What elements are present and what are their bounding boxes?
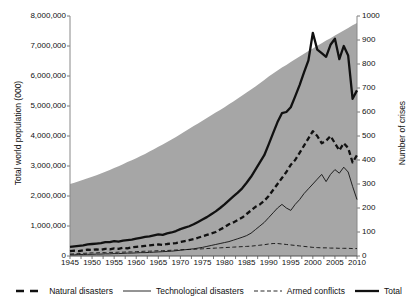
legend-swatch-thick-dashed: [15, 286, 45, 296]
legend-swatch-thick-solid: [354, 286, 380, 296]
legend-label: Armed conflicts: [287, 286, 345, 296]
chart-container: Total world population (000) Number of c…: [0, 0, 417, 304]
plot-area: [0, 0, 417, 304]
legend-item[interactable]: Technological disasters: [122, 286, 244, 296]
legend-swatch-thin-solid: [122, 286, 152, 296]
legend-label: Total: [384, 286, 402, 296]
legend-item[interactable]: Natural disasters: [15, 286, 113, 296]
legend-swatch-thin-dashed: [253, 286, 283, 296]
chart-legend: Natural disastersTechnological disasters…: [0, 281, 417, 301]
legend-item[interactable]: Total: [354, 286, 402, 296]
population-area: [70, 23, 357, 256]
legend-label: Technological disasters: [156, 286, 244, 296]
legend-label: Natural disasters: [49, 286, 113, 296]
legend-item[interactable]: Armed conflicts: [253, 286, 345, 296]
